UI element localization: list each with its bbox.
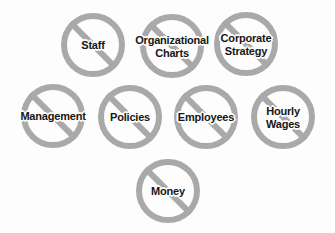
prohibition-sign-employees: Employees <box>174 85 238 149</box>
prohibition-sign-money: Money <box>136 159 200 223</box>
prohibition-sign-organizational-charts: Organizational Charts <box>140 14 204 78</box>
sign-label-organizational-charts: Organizational Charts <box>135 34 209 59</box>
sign-label-hourly-wages: Hourly Wages <box>266 105 300 130</box>
sign-label-corporate-strategy: Corporate Strategy <box>221 32 272 57</box>
sign-label-money: Money <box>151 185 185 198</box>
prohibition-sign-policies: Policies <box>98 85 162 149</box>
sign-label-staff: Staff <box>81 39 104 52</box>
prohibition-sign-staff: Staff <box>61 13 125 77</box>
prohibition-sign-hourly-wages: Hourly Wages <box>251 85 315 149</box>
sign-label-management: Management <box>20 110 85 123</box>
diagram-canvas: StaffOrganizational ChartsCorporate Stra… <box>0 0 335 233</box>
prohibition-sign-corporate-strategy: Corporate Strategy <box>214 12 278 76</box>
sign-label-policies: Policies <box>110 111 150 124</box>
sign-label-employees: Employees <box>178 111 234 124</box>
prohibition-sign-management: Management <box>21 84 85 148</box>
